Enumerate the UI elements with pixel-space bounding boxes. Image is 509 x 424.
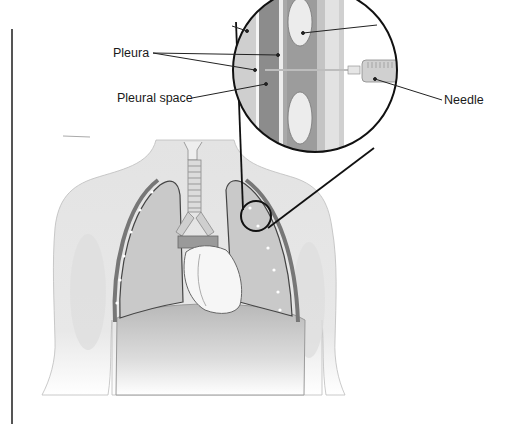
- label-needle: Needle: [444, 94, 484, 107]
- anatomy-illustration: [0, 0, 509, 424]
- label-pleural-space: Pleural space: [117, 92, 193, 105]
- stray-mark: [63, 136, 90, 137]
- thoracentesis-diagram: Pleura Pleural space Needle: [0, 0, 509, 424]
- label-pleura: Pleura: [113, 47, 149, 60]
